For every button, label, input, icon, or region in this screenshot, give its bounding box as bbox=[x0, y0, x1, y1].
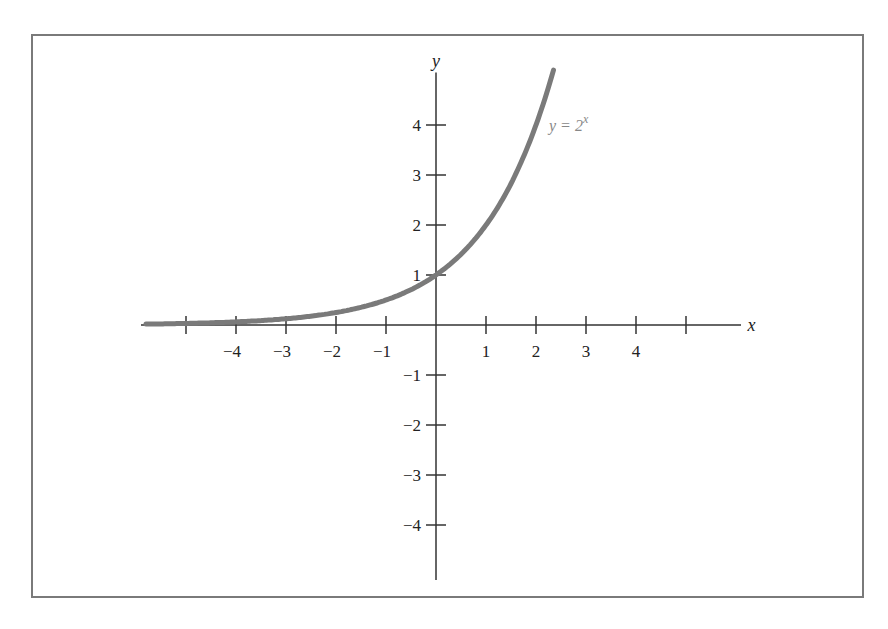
y-tick-label: 4 bbox=[413, 116, 422, 135]
axes bbox=[141, 73, 741, 581]
y-tick-label: 2 bbox=[413, 216, 422, 235]
x-tick-label: 3 bbox=[582, 342, 591, 361]
y-tick-label: −1 bbox=[403, 366, 421, 385]
y-tick-label: 1 bbox=[413, 266, 422, 285]
exponential-plot: −4−3−2−11234−4−3−2−11234 x y y = 2x bbox=[0, 0, 888, 629]
x-tick-label: −3 bbox=[273, 342, 291, 361]
y-axis-label: y bbox=[430, 51, 440, 71]
y-tick-label: −4 bbox=[403, 516, 422, 535]
curve-y-equals-2-to-x bbox=[146, 70, 554, 324]
y-tick-label: −2 bbox=[403, 416, 421, 435]
x-tick-label: 1 bbox=[482, 342, 491, 361]
x-tick-label: −2 bbox=[323, 342, 341, 361]
x-axis-label: x bbox=[747, 315, 756, 335]
x-tick-label: 4 bbox=[632, 342, 641, 361]
y-tick-label: 3 bbox=[413, 166, 422, 185]
curve-label: y = 2x bbox=[547, 112, 589, 135]
x-tick-label: −1 bbox=[373, 342, 391, 361]
x-tick-label: −4 bbox=[223, 342, 242, 361]
x-tick-label: 2 bbox=[532, 342, 541, 361]
y-tick-label: −3 bbox=[403, 466, 421, 485]
